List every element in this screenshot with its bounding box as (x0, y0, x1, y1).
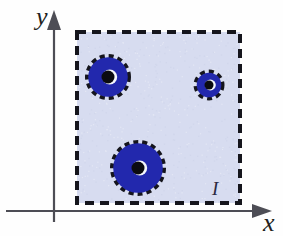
annulus-bottom-inner-hole (132, 162, 145, 175)
y-axis-label: y (33, 2, 48, 31)
annulus-right-inner-hole (205, 81, 214, 90)
annulus-top-left-inner-hole (102, 71, 115, 84)
figure-container: I x y (0, 0, 283, 236)
region-diagram: I x y (0, 0, 283, 236)
x-axis-label: x (262, 208, 275, 236)
